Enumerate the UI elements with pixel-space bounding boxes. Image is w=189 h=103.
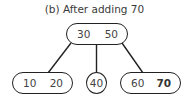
- root-node: 30 50: [66, 23, 128, 45]
- edge-root-to-left: [48, 43, 71, 73]
- left-key-2: 20: [50, 77, 63, 89]
- middle-child-node: 40: [86, 72, 107, 94]
- right-child-node: 60 70: [120, 72, 181, 94]
- root-key-2: 50: [105, 28, 118, 40]
- right-key-1: 60: [131, 77, 144, 89]
- middle-key-1: 40: [90, 77, 103, 89]
- right-key-2-new: 70: [156, 77, 171, 89]
- left-child-node: 10 20: [12, 72, 73, 94]
- root-key-1: 30: [77, 28, 90, 40]
- edge-root-to-right: [122, 43, 143, 73]
- left-key-1: 10: [23, 77, 36, 89]
